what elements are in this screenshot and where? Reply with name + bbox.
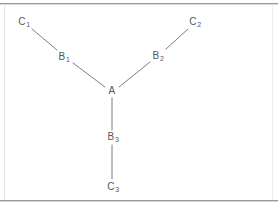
node-label-base: C xyxy=(107,181,114,192)
edge-layer xyxy=(32,29,188,179)
node-label-c2: C2 xyxy=(189,17,201,27)
graph-edge-b2-c2 xyxy=(166,29,188,49)
node-label-base: A xyxy=(109,85,116,96)
node-label-subscript: 3 xyxy=(115,136,119,143)
node-label-c3: C3 xyxy=(107,182,119,192)
node-label-base: B xyxy=(108,131,115,142)
node-label-subscript: 2 xyxy=(197,21,201,28)
node-label-b1: B1 xyxy=(59,52,70,62)
node-label-b2: B2 xyxy=(153,51,164,61)
node-label-a: A xyxy=(109,86,116,96)
node-label-base: C xyxy=(189,16,196,27)
bottom-border-rule-shadow xyxy=(0,201,278,202)
node-label-subscript: 2 xyxy=(160,55,164,62)
node-label-subscript: 3 xyxy=(115,186,119,193)
node-label-subscript: 1 xyxy=(26,21,30,28)
node-label-base: B xyxy=(153,50,160,61)
node-label-b3: B3 xyxy=(108,132,119,142)
node-label-base: B xyxy=(59,51,66,62)
graph-edge-b1-c1 xyxy=(32,29,57,50)
figure-root: AB1B2B3C1C2C3 xyxy=(0,0,278,206)
node-label-subscript: 1 xyxy=(66,56,70,63)
node-label-c1: C1 xyxy=(18,17,30,27)
graph-canvas xyxy=(0,0,278,206)
node-label-base: C xyxy=(18,16,25,27)
graph-edge-a-b1 xyxy=(73,63,105,87)
graph-edge-a-b2 xyxy=(119,62,150,87)
